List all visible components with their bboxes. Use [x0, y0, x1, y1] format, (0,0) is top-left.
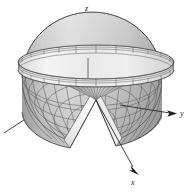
upper-funnel-surface [18, 45, 174, 87]
3d-solid-of-revolution-figure: y x z [0, 0, 193, 193]
y-axis-label: y [179, 109, 184, 118]
figure-canvas: y x z [0, 0, 193, 193]
x-axis-label: x [130, 178, 135, 187]
